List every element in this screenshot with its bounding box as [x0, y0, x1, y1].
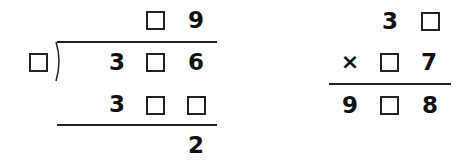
multiply-sign-icon: × — [340, 50, 360, 74]
product-hundreds-digit: 3 — [106, 92, 128, 116]
product-ones-blank-box[interactable] — [187, 96, 206, 115]
remainder-digit: 2 — [185, 133, 207, 157]
result-hundreds-digit: 9 — [339, 93, 361, 117]
quotient-ones-digit: 9 — [185, 8, 207, 32]
multiplier-tens-blank-box[interactable] — [380, 53, 399, 72]
dividend-hundreds-digit: 3 — [106, 50, 128, 74]
division-bar-line — [57, 41, 217, 43]
result-tens-blank-box[interactable] — [380, 96, 399, 115]
quotient-tens-blank-box[interactable] — [146, 11, 165, 30]
multiplicand-tens-digit: 3 — [379, 9, 401, 33]
divisor-blank-box[interactable] — [29, 53, 48, 72]
multiplicand-ones-blank-box[interactable] — [421, 12, 440, 31]
product-tens-blank-box[interactable] — [146, 96, 165, 115]
result-ones-digit: 8 — [419, 93, 441, 117]
multiplier-ones-digit: 7 — [418, 50, 440, 74]
division-bracket-icon — [55, 41, 65, 83]
multiplication-result-line — [329, 83, 451, 85]
dividend-tens-blank-box[interactable] — [146, 53, 165, 72]
subtraction-line — [57, 124, 217, 126]
dividend-ones-digit: 6 — [185, 50, 207, 74]
